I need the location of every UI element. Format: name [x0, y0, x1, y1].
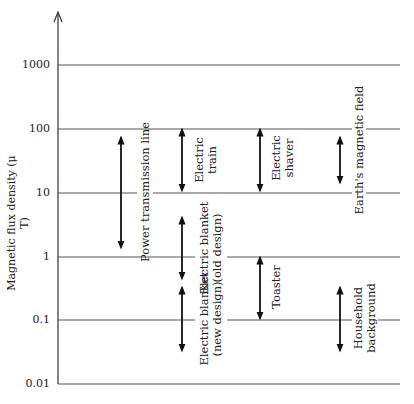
label-power-line: Power transmission line [139, 122, 152, 262]
label-toaster: Toaster [270, 265, 283, 308]
y-tick-0.1: 0.1 [0, 313, 50, 326]
label-household: Householdbackground [352, 283, 378, 353]
gridlines [58, 65, 400, 384]
y-tick-1000: 1000 [0, 58, 50, 71]
y-tick-0.01: 0.01 [0, 377, 50, 390]
label-electric-train: Electrictrain [193, 137, 219, 183]
y-tick-100: 100 [0, 122, 50, 135]
label-earth-field: Earth's magnetic field [353, 86, 366, 215]
label-electric-shaver: Electricshaver [270, 135, 296, 181]
y-axis-label: Magnetic flux density (μ T) [5, 153, 31, 293]
label-blanket-new: Electric blanket(new design) [198, 273, 224, 366]
